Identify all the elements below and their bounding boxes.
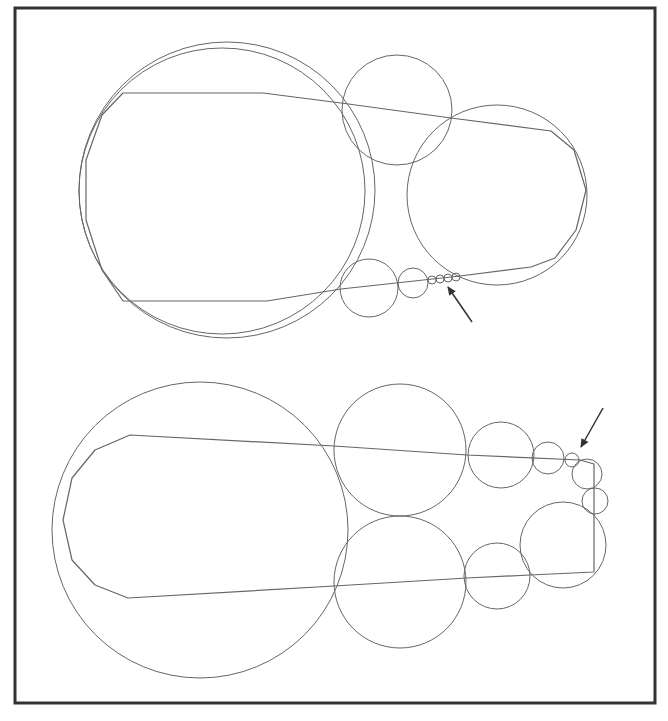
belt-path (86, 93, 586, 301)
top-panel (79, 42, 587, 338)
circle (572, 459, 602, 489)
diagram-canvas (0, 0, 668, 721)
circle (52, 382, 348, 678)
circle (79, 42, 375, 338)
belt-path (63, 435, 594, 598)
figure-frame (15, 8, 655, 703)
circle (582, 488, 608, 514)
bottom-panel (52, 382, 608, 678)
pointer-arrow-icon (448, 287, 472, 322)
pointer-arrow-icon (581, 408, 603, 447)
circle (398, 268, 428, 298)
circle (79, 48, 365, 334)
circle (428, 276, 436, 284)
circle (407, 105, 587, 285)
